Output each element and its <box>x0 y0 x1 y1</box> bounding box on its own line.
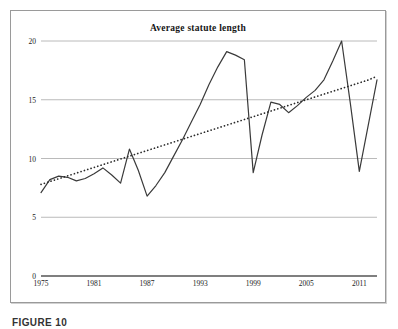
x-axis-tick-label: 2011 <box>352 279 367 288</box>
trendline-path <box>41 76 377 184</box>
x-axis-tick-label: 1987 <box>140 279 155 288</box>
x-axis-tick-label: 1975 <box>34 279 49 288</box>
y-axis-tick-label: 5 <box>32 213 36 222</box>
y-axis-tick-label: 10 <box>29 154 37 163</box>
figure-page: Average statute length 05101520 19751981… <box>0 0 398 329</box>
data-series-group <box>41 41 377 196</box>
figure-caption: FIGURE 10 <box>12 316 67 329</box>
y-axis-tick-label: 15 <box>29 95 37 104</box>
gridlines <box>41 41 377 276</box>
x-axis-tick-label: 2005 <box>299 279 314 288</box>
chart-title: Average statute length <box>11 23 385 33</box>
figure-frame: Average statute length 05101520 19751981… <box>10 10 386 303</box>
plot-area: 05101520 1975198119871993199920052011 <box>41 41 377 276</box>
y-axis-tick-label: 20 <box>29 37 37 46</box>
x-axis-tick-label: 1993 <box>193 279 208 288</box>
x-axis-tick-label: 1999 <box>246 279 261 288</box>
x-axis-tick-label: 1981 <box>87 279 102 288</box>
line-chart-svg <box>41 41 377 276</box>
data-line-path <box>41 41 377 196</box>
